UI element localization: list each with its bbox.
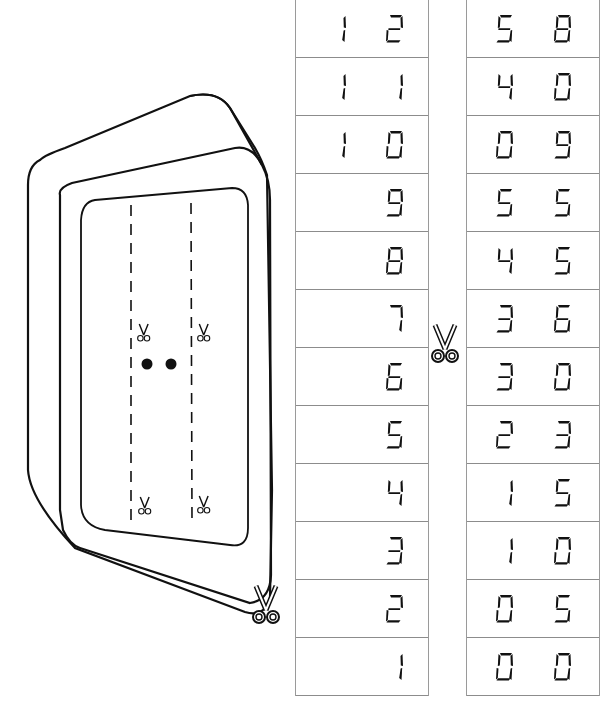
minute-cell: 10 [467, 522, 599, 580]
scissors-icon [198, 496, 210, 513]
lcd-digit-ones [551, 361, 573, 393]
lcd-digit-tens [493, 477, 515, 509]
hour-cell: 8 [296, 232, 428, 290]
lcd-digit-tens [493, 245, 515, 277]
hour-value: 7 [296, 290, 297, 291]
hour-cell: 11 [296, 58, 428, 116]
hour-value: 10 [296, 116, 297, 117]
hour-value: 9 [296, 174, 297, 175]
minute-cell: 09 [467, 116, 599, 174]
minute-value: 10 [467, 522, 468, 523]
hour-cell: 5 [296, 406, 428, 464]
minute-cell: 58 [467, 0, 599, 58]
minute-value: 00 [467, 638, 468, 639]
lcd-digit-tens [493, 71, 515, 103]
lcd-digit-ones [383, 187, 405, 219]
lcd-digit-tens [493, 303, 515, 335]
lcd-digit-ones [551, 535, 573, 567]
lcd-digit-ones [551, 419, 573, 451]
minute-strip: 584009554536302315100500 [466, 0, 600, 696]
minute-value: 05 [467, 580, 468, 581]
lcd-digit-tens [493, 593, 515, 625]
lcd-digit-ones [551, 593, 573, 625]
lcd-digit-ones [551, 651, 573, 683]
lcd-digit-ones [551, 187, 573, 219]
minute-cell: 05 [467, 580, 599, 638]
lcd-digit-ones [383, 71, 405, 103]
lcd-digit-ones [383, 419, 405, 451]
minute-value: 23 [467, 406, 468, 407]
hour-value: 4 [296, 464, 297, 465]
scissors-icon [138, 324, 150, 341]
minute-slot-cut-line [191, 203, 192, 522]
lcd-digit-tens [326, 13, 348, 45]
minute-cell: 23 [467, 406, 599, 464]
lcd-digit-ones [383, 245, 405, 277]
lcd-digit-ones [383, 13, 405, 45]
hour-value: 3 [296, 522, 297, 523]
scissors-icon [139, 497, 151, 514]
hour-strip: 121110987654321 [295, 0, 429, 696]
clock-bezel [60, 148, 271, 603]
lcd-digit-ones [551, 71, 573, 103]
lcd-digit-ones [383, 129, 405, 161]
hour-value: 1 [296, 638, 297, 639]
hour-cell: 12 [296, 0, 428, 58]
lcd-digit-ones [383, 593, 405, 625]
hour-value: 5 [296, 406, 297, 407]
hour-cell: 7 [296, 290, 428, 348]
minute-cell: 45 [467, 232, 599, 290]
minute-cell: 55 [467, 174, 599, 232]
lcd-digit-tens [493, 651, 515, 683]
lcd-digit-ones [551, 477, 573, 509]
minute-value: 40 [467, 58, 468, 59]
lcd-digit-tens [326, 71, 348, 103]
scissors-icon [198, 324, 210, 341]
lcd-digit-ones [551, 129, 573, 161]
minute-value: 09 [467, 116, 468, 117]
minute-cell: 00 [467, 638, 599, 696]
lcd-digit-ones [383, 477, 405, 509]
lcd-digit-ones [551, 13, 573, 45]
hour-cell: 2 [296, 580, 428, 638]
lcd-digit-ones [383, 651, 405, 683]
minute-value: 15 [467, 464, 468, 465]
lcd-digit-tens [493, 129, 515, 161]
minute-cell: 40 [467, 58, 599, 116]
lcd-digit-ones [551, 303, 573, 335]
hour-value: 2 [296, 580, 297, 581]
lcd-digit-tens [493, 361, 515, 393]
lcd-digit-tens [493, 187, 515, 219]
lcd-digit-tens [493, 535, 515, 567]
hour-value: 11 [296, 58, 297, 59]
minute-value: 30 [467, 348, 468, 349]
minute-value: 58 [467, 0, 468, 1]
lcd-digit-ones [551, 245, 573, 277]
clock-screen [81, 188, 248, 545]
hour-cell: 10 [296, 116, 428, 174]
lcd-digit-tens [493, 419, 515, 451]
minute-cell: 36 [467, 290, 599, 348]
minute-cell: 30 [467, 348, 599, 406]
colon-dot-top [142, 359, 153, 370]
hour-cell: 6 [296, 348, 428, 406]
lcd-digit-ones [383, 303, 405, 335]
minute-cell: 15 [467, 464, 599, 522]
lcd-digit-ones [383, 361, 405, 393]
colon-dot-bottom [166, 359, 177, 370]
minute-value: 45 [467, 232, 468, 233]
hour-value: 6 [296, 348, 297, 349]
hour-value: 8 [296, 232, 297, 233]
hour-cell: 4 [296, 464, 428, 522]
hour-cell: 9 [296, 174, 428, 232]
scissors-icon [432, 325, 458, 362]
minute-value: 55 [467, 174, 468, 175]
lcd-digit-tens [493, 13, 515, 45]
lcd-digit-tens [326, 129, 348, 161]
minute-value: 36 [467, 290, 468, 291]
hour-cell: 3 [296, 522, 428, 580]
hour-cell: 1 [296, 638, 428, 696]
lcd-digit-ones [383, 535, 405, 567]
hour-value: 12 [296, 0, 297, 1]
